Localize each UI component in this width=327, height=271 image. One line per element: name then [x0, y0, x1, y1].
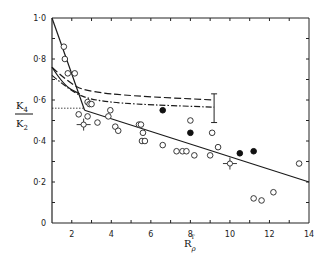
data-points	[61, 44, 302, 203]
fit-lines	[52, 18, 309, 182]
open-data-point	[62, 56, 68, 62]
open-data-point	[271, 189, 277, 195]
x-tick-label: 4	[109, 230, 114, 239]
open-data-point	[61, 44, 67, 50]
x-axis-label: RρT	[184, 233, 197, 253]
y-tick-label: 0	[41, 219, 46, 228]
open-data-point	[95, 120, 101, 126]
dash-dot-curve	[52, 75, 214, 107]
open-data-point	[108, 107, 114, 113]
open-data-point	[72, 71, 78, 77]
filled-data-point	[188, 130, 194, 136]
chart: 246810121400·20·40·60·81·0 K4 K2 RρT	[0, 0, 327, 271]
errorbar-data-point	[227, 161, 232, 166]
open-data-point	[85, 114, 91, 120]
open-data-point	[115, 128, 121, 134]
y-tick-label: 1·0	[33, 14, 46, 23]
x-tick-label: 6	[148, 230, 153, 239]
x-tick-label: 10	[225, 230, 235, 239]
axis-labels: K4 K2 RρT	[15, 100, 197, 253]
y-axis-label-numerator: K4	[16, 100, 28, 114]
open-data-point	[192, 153, 198, 159]
errorbar-data-point	[81, 122, 86, 127]
open-data-point	[142, 138, 148, 144]
axis-ticks: 246810121400·20·40·60·81·0	[33, 14, 314, 239]
x-tick-label: 14	[304, 230, 314, 239]
open-data-point	[259, 198, 265, 204]
open-data-point	[209, 130, 215, 136]
open-data-point	[188, 118, 194, 124]
open-data-point	[296, 161, 302, 167]
open-data-point	[140, 130, 146, 136]
filled-data-point	[251, 148, 257, 154]
shallow-solid-line	[85, 110, 309, 182]
open-data-point	[251, 196, 257, 202]
steep-solid-line	[52, 18, 85, 110]
open-data-point	[106, 114, 112, 120]
y-tick-label: 0·2	[33, 178, 46, 187]
open-data-point	[207, 153, 213, 159]
y-axis-label-denominator: K2	[16, 118, 28, 132]
open-data-point	[65, 71, 71, 77]
open-data-point	[184, 148, 190, 154]
y-tick-label: 0·8	[33, 55, 46, 64]
open-data-point	[76, 112, 82, 118]
open-data-point	[89, 101, 95, 107]
open-data-point	[215, 144, 221, 150]
y-tick-label: 0·6	[33, 96, 46, 105]
x-tick-label: 2	[69, 230, 74, 239]
filled-data-point	[160, 107, 166, 113]
filled-data-point	[237, 151, 243, 157]
open-data-point	[138, 122, 144, 128]
y-tick-label: 0·4	[33, 137, 46, 146]
x-tick-label: 12	[264, 230, 274, 239]
open-data-point	[174, 148, 180, 154]
open-data-point	[160, 142, 166, 148]
